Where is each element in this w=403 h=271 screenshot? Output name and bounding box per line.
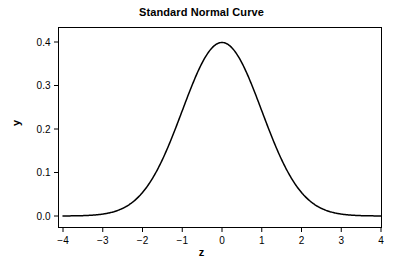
x-tick-label: 0 (219, 235, 225, 246)
y-tick-label: 0.2 (37, 124, 51, 135)
x-tick-label: −4 (57, 235, 69, 246)
y-tick-label: 0.0 (37, 211, 51, 222)
y-tick-label: 0.1 (37, 167, 51, 178)
x-tick-label: 3 (338, 235, 344, 246)
y-axis-label: y (10, 112, 22, 134)
x-tick-label: 2 (299, 235, 305, 246)
x-tick-label: 1 (259, 235, 265, 246)
data-curve (63, 42, 381, 215)
x-axis-label: z (0, 246, 403, 258)
y-tick-label: 0.3 (37, 80, 51, 91)
x-tick-label: 4 (378, 235, 384, 246)
y-tick-label: 0.4 (37, 37, 51, 48)
chart-figure: Standard Normal Curve −4−3−2−1012340.00.… (0, 0, 403, 271)
x-tick-label: −2 (137, 235, 149, 246)
plot-frame (59, 28, 382, 228)
x-tick-label: −1 (177, 235, 189, 246)
plot-area: −4−3−2−1012340.00.10.20.30.4 (0, 0, 403, 271)
x-tick-label: −3 (97, 235, 109, 246)
